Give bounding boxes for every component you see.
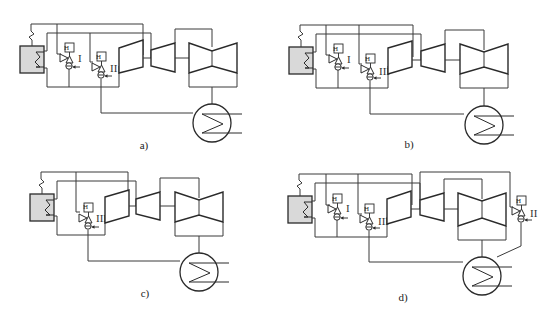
valve-numeral: I [78,52,82,64]
valve-tag: H [333,45,338,53]
condenser-icon [465,106,514,144]
boiler-icon [289,47,313,74]
valve-tag: H [364,205,369,213]
boiler-icon [20,46,44,73]
panel-a: H I H II a) [20,24,242,152]
condenser-icon [463,257,512,295]
ip-turbine [136,192,160,220]
hp-turbine [388,41,412,74]
hp-turbine [119,40,143,73]
boiler-icon [30,194,54,221]
condenser-icon [193,104,242,142]
valve-numeral: I [347,53,351,65]
ip-turbine [421,44,445,72]
valve-tag: H [516,197,521,205]
condenser-icon [180,253,229,291]
panel-b: H I H III b) [289,25,514,151]
panel-d: H I H III H II d) [288,172,538,304]
hp-turbine [105,190,129,223]
valve-tag: H [96,53,101,61]
lp-turbine [189,43,237,73]
ip-turbine [151,43,175,72]
valve-tag: H [332,195,337,203]
hp-turbine [387,191,411,224]
panel-caption: b) [404,138,414,151]
turbine-schematic-figure: H I H II a) H I H [0,0,554,318]
valve-numeral: II [110,62,118,74]
valve-numeral: I [346,202,350,214]
valve-tag: H [365,55,370,63]
valve-tag: H [64,44,69,52]
panel-caption: c) [141,287,150,300]
valve-numeral: II [530,207,538,219]
valve-tag: H [83,203,88,211]
panel-caption: d) [398,291,408,304]
ip-turbine [420,193,444,221]
boiler-icon [288,196,312,223]
panel-caption: a) [140,139,149,152]
panel-c: H III c) [30,172,229,300]
